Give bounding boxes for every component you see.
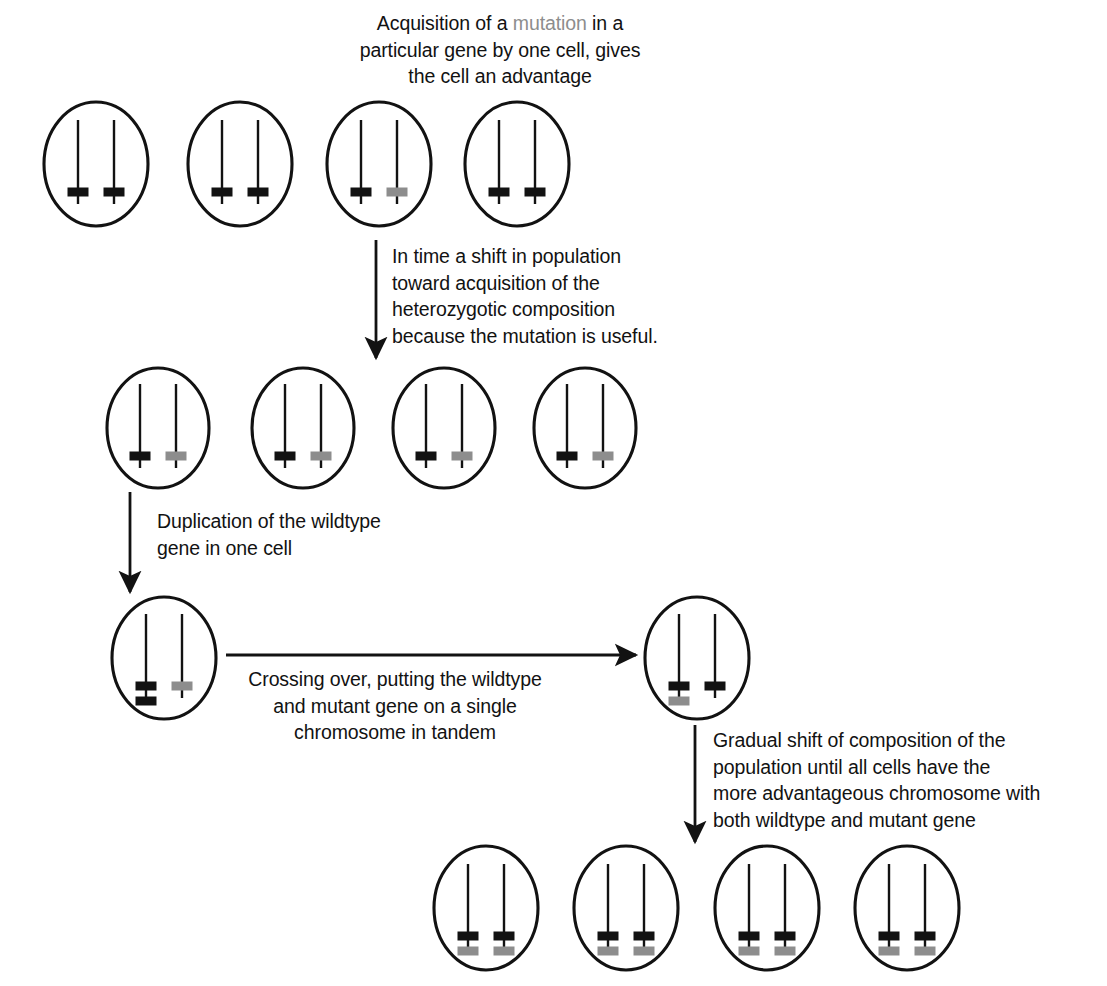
chromosome-left [489, 120, 510, 204]
chromosome-left [275, 384, 296, 468]
cell-membrane [855, 846, 959, 970]
wildtype-gene-marker [598, 932, 619, 941]
mutant-gene-marker [494, 947, 515, 956]
cell-membrane [534, 368, 636, 488]
row-crossover-product [645, 597, 749, 719]
wildtype-gene-marker [275, 452, 296, 461]
row-final-population [434, 846, 959, 970]
chromosome-right [172, 614, 193, 698]
wildtype-gene-marker [494, 932, 515, 941]
chromosome-left [68, 120, 89, 204]
wildtype-gene-marker [705, 682, 726, 691]
chromosome-right [593, 384, 614, 468]
chromosome-right [775, 864, 796, 956]
caption-acquisition-of-mutation: Acquisition of a mutation in a particula… [305, 10, 695, 90]
chromosome-right [166, 384, 187, 468]
chromosome-right [311, 384, 332, 468]
chromosome-right [387, 120, 408, 204]
chromosome-left [212, 120, 233, 204]
wildtype-gene-marker [525, 188, 546, 197]
cell [855, 846, 959, 970]
cell [465, 102, 569, 226]
chromosome-left [739, 864, 760, 956]
cell-membrane [393, 368, 495, 488]
chromosome-right [915, 864, 936, 956]
chromosome-left [416, 384, 437, 468]
wildtype-gene-marker [351, 188, 372, 197]
chromosome-left [130, 384, 151, 468]
cell-membrane [465, 102, 569, 226]
mutant-gene-marker [598, 947, 619, 956]
chromosome-right [452, 384, 473, 468]
row-heterozygous-population [107, 368, 636, 488]
mutant-gene-marker [452, 452, 473, 461]
cell-membrane [44, 102, 148, 226]
mutant-gene-marker [311, 452, 332, 461]
wildtype-gene-marker [248, 188, 269, 197]
chromosome-left [351, 120, 372, 204]
cell-membrane [252, 368, 354, 488]
mutant-gene-marker [669, 697, 690, 706]
mutant-gene-marker [879, 947, 900, 956]
row-initial-population [44, 102, 569, 226]
wildtype-gene-marker [136, 697, 157, 706]
chromosome-right [634, 864, 655, 956]
wildtype-gene-marker [458, 932, 479, 941]
gene-duplication-diagram: Acquisition of a mutation in a particula… [0, 0, 1107, 986]
mutation-highlight: mutation [513, 12, 587, 34]
wildtype-gene-marker [489, 188, 510, 197]
caption-text-before: Acquisition of a [377, 12, 513, 34]
chromosome-right [248, 120, 269, 204]
wildtype-gene-marker [557, 452, 578, 461]
cell [645, 597, 749, 719]
chromosome-left [136, 614, 157, 706]
cell [44, 102, 148, 226]
caption-duplication: Duplication of the wildtype gene in one … [157, 508, 457, 561]
wildtype-gene-marker [130, 452, 151, 461]
mutant-gene-marker [172, 682, 193, 691]
caption-gradual-shift: Gradual shift of composition of the popu… [713, 727, 1103, 833]
chromosome-left [879, 864, 900, 956]
cell [393, 368, 495, 488]
cell-membrane [434, 846, 538, 970]
chromosome-right [705, 614, 726, 698]
mutant-gene-marker [387, 188, 408, 197]
chromosome-left [557, 384, 578, 468]
caption-crossing-over: Crossing over, putting the wildtype and … [243, 666, 547, 746]
mutant-gene-marker [458, 947, 479, 956]
cell-membrane [645, 597, 749, 719]
wildtype-gene-marker [879, 932, 900, 941]
mutant-gene-marker [775, 947, 796, 956]
mutant-gene-marker [593, 452, 614, 461]
wildtype-gene-marker [416, 452, 437, 461]
cell [188, 102, 292, 226]
cell [112, 597, 216, 719]
wildtype-gene-marker [136, 682, 157, 691]
wildtype-gene-marker [634, 932, 655, 941]
cell [574, 846, 678, 970]
chromosome-left [669, 614, 690, 706]
mutant-gene-marker [166, 452, 187, 461]
chromosome-right [494, 864, 515, 956]
mutant-gene-marker [634, 947, 655, 956]
wildtype-gene-marker [68, 188, 89, 197]
mutant-gene-marker [915, 947, 936, 956]
mutant-gene-marker [739, 947, 760, 956]
cell-membrane [188, 102, 292, 226]
cell [252, 368, 354, 488]
wildtype-gene-marker [104, 188, 125, 197]
cell-membrane [715, 846, 819, 970]
chromosome-left [598, 864, 619, 956]
chromosome-left [458, 864, 479, 956]
wildtype-gene-marker [739, 932, 760, 941]
caption-population-shift: In time a shift in population toward acq… [392, 243, 722, 349]
cell-membrane [574, 846, 678, 970]
cell [434, 846, 538, 970]
wildtype-gene-marker [669, 682, 690, 691]
cell-membrane [327, 102, 431, 226]
cell [107, 368, 209, 488]
cell [715, 846, 819, 970]
cell [534, 368, 636, 488]
chromosome-right [104, 120, 125, 204]
cell [327, 102, 431, 226]
